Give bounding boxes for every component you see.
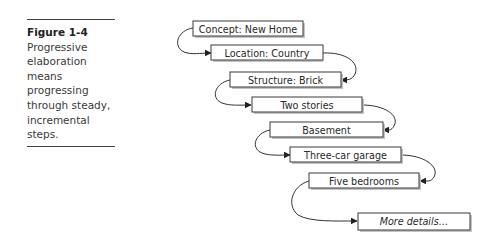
step-box-3: Structure: Brick bbox=[230, 72, 343, 89]
step-box-8: More details… bbox=[358, 213, 472, 232]
step-box-6: Three-car garage bbox=[290, 147, 403, 164]
step-box-4: Two stories bbox=[252, 97, 364, 114]
step-label: Structure: Brick bbox=[248, 75, 323, 86]
step-box-2: Location: Country bbox=[211, 45, 323, 62]
step-label: Location: Country bbox=[225, 48, 310, 59]
step-label: Basement bbox=[302, 125, 351, 136]
step-box-1: Concept: New Home bbox=[193, 21, 305, 38]
step-box-7: Five bedrooms bbox=[309, 173, 421, 190]
step-label: Three-car garage bbox=[303, 150, 387, 161]
step-label: Two stories bbox=[279, 100, 333, 111]
progressive-elaboration-diagram: Concept: New Home Location: Country Stru… bbox=[0, 0, 489, 240]
step-label: More details… bbox=[380, 216, 449, 227]
step-label: Concept: New Home bbox=[199, 24, 297, 35]
step-label: Five bedrooms bbox=[329, 176, 399, 187]
step-box-5: Basement bbox=[270, 122, 385, 139]
